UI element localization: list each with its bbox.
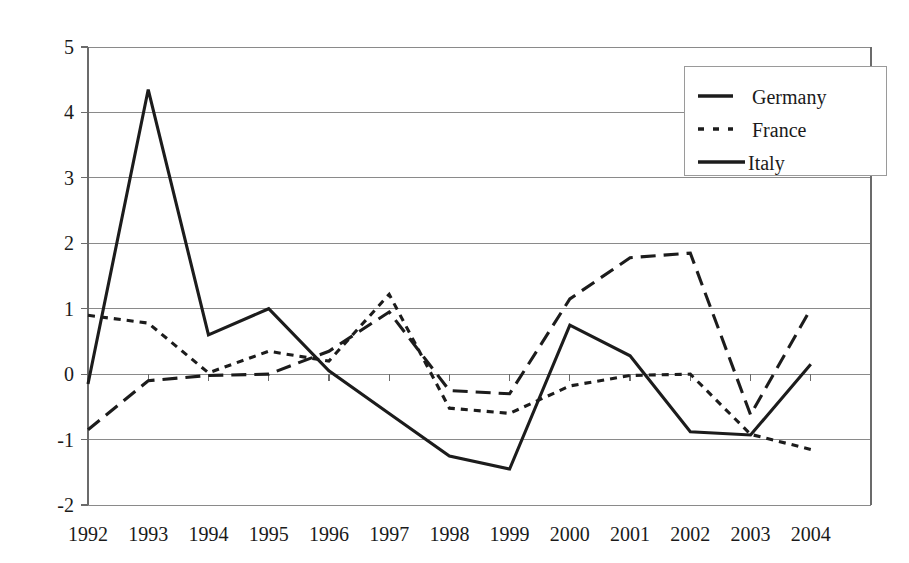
x-axis-tick-label: 2004 [791, 523, 831, 545]
legend-label: Germany [752, 86, 826, 109]
x-axis-tick-label: 1993 [128, 523, 168, 545]
y-axis-tick-label: 1 [64, 298, 74, 320]
x-axis-tick-label: 2001 [610, 523, 650, 545]
x-axis-tick-label: 2002 [670, 523, 710, 545]
y-axis-tick-label: 2 [64, 232, 74, 254]
chart-container: 543210-1-2 19921993199419951996199719981… [0, 0, 909, 563]
x-axis-tick-label: 1997 [369, 523, 409, 545]
x-axis-tick-label: 1998 [429, 523, 469, 545]
y-axis-tick-label: -2 [57, 494, 74, 516]
y-axis-tick-label: 0 [64, 363, 74, 385]
y-axis-tick-label: 3 [64, 167, 74, 189]
legend-label: France [752, 119, 807, 141]
y-axis-tick-label: 4 [64, 101, 74, 123]
legend-label: Italy [748, 152, 785, 175]
line-chart: 543210-1-2 19921993199419951996199719981… [0, 0, 909, 563]
x-axis-tick-label: 1995 [249, 523, 289, 545]
chart-legend: GermanyFranceItaly [684, 66, 886, 175]
y-axis-tick-label: 5 [64, 36, 74, 58]
x-axis-tick-label: 2003 [731, 523, 771, 545]
x-axis-tick-label: 1999 [490, 523, 530, 545]
x-axis-tick-label: 2000 [550, 523, 590, 545]
x-axis-tick-label: 1992 [68, 523, 108, 545]
x-axis-tick-label: 1994 [188, 523, 228, 545]
x-axis-tick-label: 1996 [309, 523, 349, 545]
y-axis-tick-label: -1 [57, 429, 74, 451]
